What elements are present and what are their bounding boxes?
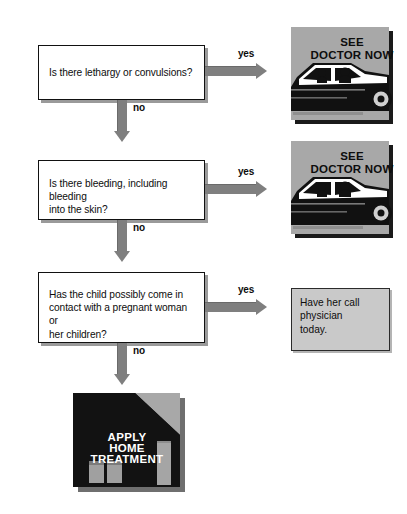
no-label-3: no bbox=[133, 345, 145, 356]
no-arrow-2 bbox=[117, 220, 127, 262]
flowchart-canvas: Is there lethargy or convulsions? yes no… bbox=[0, 0, 407, 514]
outcome-apply-home-treatment[interactable]: APPLY HOME TREATMENT bbox=[73, 393, 190, 495]
no-label-2: no bbox=[133, 222, 145, 233]
yes-arrow-2-shaft bbox=[205, 184, 256, 194]
yes-label-1: yes bbox=[238, 48, 254, 59]
outcome-see-doctor-now-1[interactable]: SEE DOCTOR NOW bbox=[291, 27, 395, 126]
svg-text:DOCTOR NOW: DOCTOR NOW bbox=[311, 163, 394, 175]
see-doctor-now-illustration-1: SEE DOCTOR NOW bbox=[291, 27, 395, 126]
no-arrow-3-head bbox=[114, 374, 130, 385]
svg-text:SEE: SEE bbox=[340, 150, 364, 162]
outcome-call-physician[interactable]: Have her call physician today. bbox=[291, 288, 390, 351]
no-arrow-2-head bbox=[114, 251, 130, 262]
decision-box-lethargy-text: Is there lethargy or convulsions? bbox=[49, 66, 196, 79]
decision-box-lethargy[interactable]: Is there lethargy or convulsions? bbox=[38, 45, 205, 100]
no-arrow-1-shaft bbox=[117, 100, 127, 131]
yes-arrow-1-head bbox=[256, 63, 267, 79]
no-arrow-3-shaft bbox=[117, 343, 127, 374]
decision-box-bleeding-text: Is there bleeding, including bleeding in… bbox=[49, 177, 196, 217]
no-arrow-1-head bbox=[114, 131, 130, 142]
no-arrow-1 bbox=[117, 100, 127, 142]
yes-label-2: yes bbox=[238, 166, 254, 177]
see-doctor-now-illustration-2: SEE DOCTOR NOW bbox=[291, 141, 395, 240]
yes-arrow-1-shaft bbox=[205, 66, 256, 76]
outcome-call-physician-text: Have her call physician today. bbox=[300, 296, 384, 336]
yes-arrow-2 bbox=[205, 184, 267, 194]
apply-home-treatment-illustration: APPLY HOME TREATMENT bbox=[73, 393, 190, 495]
yes-arrow-2-head bbox=[256, 181, 267, 197]
svg-text:TREATMENT: TREATMENT bbox=[91, 453, 164, 465]
outcome-see-doctor-now-2[interactable]: SEE DOCTOR NOW bbox=[291, 141, 395, 240]
no-arrow-3 bbox=[117, 343, 127, 385]
no-label-1: no bbox=[133, 102, 145, 113]
decision-box-bleeding[interactable]: Is there bleeding, including bleeding in… bbox=[38, 160, 205, 220]
yes-arrow-3 bbox=[205, 302, 267, 312]
yes-label-3: yes bbox=[238, 284, 254, 295]
svg-text:SEE: SEE bbox=[340, 36, 364, 48]
svg-text:DOCTOR NOW: DOCTOR NOW bbox=[311, 49, 394, 61]
decision-box-pregnant-contact-text: Has the child possibly come in contact w… bbox=[49, 288, 196, 341]
yes-arrow-1 bbox=[205, 66, 267, 76]
no-arrow-2-shaft bbox=[117, 220, 127, 251]
decision-box-pregnant-contact[interactable]: Has the child possibly come in contact w… bbox=[38, 272, 205, 343]
yes-arrow-3-head bbox=[256, 299, 267, 315]
yes-arrow-3-shaft bbox=[205, 302, 256, 312]
